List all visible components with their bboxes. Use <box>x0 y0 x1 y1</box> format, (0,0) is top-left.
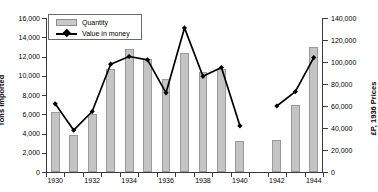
x-axis-tick-label: 1944 <box>294 177 334 184</box>
y-axis-right-tick-label: 80,000 <box>331 81 352 88</box>
y-axis-right-tick <box>323 128 328 129</box>
legend-item-value-in-money: Value in money <box>52 28 138 39</box>
y-axis-left-tick-label: 6,000 <box>22 111 40 118</box>
value-marker-1934 <box>127 54 132 59</box>
value-marker-1937 <box>182 25 187 30</box>
value-marker-1938 <box>200 74 205 79</box>
y-axis-left-tick-label: 10,000 <box>19 72 40 79</box>
x-axis-tick-label: 1932 <box>72 177 112 184</box>
y-axis-right-title: £P, 1936 Prices <box>369 82 378 136</box>
y-axis-right-tick <box>323 84 328 85</box>
value-marker-1940 <box>237 123 242 128</box>
legend-item-quantity: Quantity <box>52 17 138 28</box>
y-axis-left-tick-label: 4,000 <box>22 130 40 137</box>
x-axis-tick-label: 1930 <box>35 177 75 184</box>
y-axis-right-tick <box>323 18 328 19</box>
chart-legend: Quantity Value in money <box>48 14 142 40</box>
y-axis-left-tick-label: 0 <box>36 169 40 176</box>
legend-label-quantity: Quantity <box>82 19 108 26</box>
y-axis-right-tick-label: 140,000 <box>331 15 356 22</box>
y-axis-left-tick-label: 12,000 <box>19 53 40 60</box>
y-axis-left-tick-label: 2,000 <box>22 149 40 156</box>
value-line-segment-0 <box>55 28 240 130</box>
legend-label-value-in-money: Value in money <box>82 30 130 37</box>
value-marker-1939 <box>219 65 224 70</box>
y-axis-right-tick <box>323 150 328 151</box>
x-axis-tick-label: 1942 <box>257 177 297 184</box>
y-axis-left-tick-label: 14,000 <box>19 34 40 41</box>
x-axis-tick-label: 1940 <box>220 177 260 184</box>
legend-bar-swatch-icon <box>56 19 77 26</box>
line-series-value-in-money <box>46 18 323 172</box>
y-axis-right-tick-label: 60,000 <box>331 103 352 110</box>
y-axis-right-tick <box>323 62 328 63</box>
y-axis-right-tick-label: 20,000 <box>331 147 352 154</box>
y-axis-right-tick-label: 100,000 <box>331 59 356 66</box>
y-axis-right-tick <box>323 106 328 107</box>
x-axis-tick-label: 1936 <box>146 177 186 184</box>
y-axis-left-tick-label: 8,000 <box>22 92 40 99</box>
y-axis-left-tick-label: 16,000 <box>19 15 40 22</box>
y-axis-left-title: Tons Imported <box>0 75 6 127</box>
value-line-segment-1 <box>277 58 314 106</box>
y-axis-right-tick-label: 0 <box>331 169 335 176</box>
x-axis-tick-label: 1938 <box>183 177 223 184</box>
legend-line-diamond-icon <box>56 28 77 39</box>
x-axis-line <box>46 172 323 173</box>
y-axis-right-tick <box>323 40 328 41</box>
value-marker-1933 <box>108 62 113 67</box>
x-axis-tick-label: 1934 <box>109 177 149 184</box>
y-axis-right-tick-label: 40,000 <box>331 125 352 132</box>
y-axis-right-tick-label: 120,000 <box>331 37 356 44</box>
